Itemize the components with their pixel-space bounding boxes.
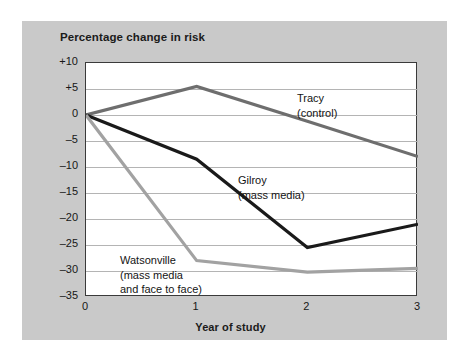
series-label-watsonville-line-1: (mass media — [120, 268, 202, 283]
series-label-tracy-line-0: Tracy — [297, 91, 337, 106]
series-line-0 — [86, 86, 418, 156]
x-tick-label: 0 — [73, 300, 97, 312]
series-label-gilroy: Gilroy (mass media) — [238, 173, 305, 202]
y-tick-label: 0 — [42, 107, 78, 119]
y-tick-label: +10 — [42, 55, 78, 67]
y-tick-label: –15 — [42, 185, 78, 197]
x-axis-label: Year of study — [0, 321, 461, 333]
series-label-watsonville-line-2: and face to face) — [120, 282, 202, 297]
y-tick-label: –10 — [42, 159, 78, 171]
x-tick-label: 2 — [294, 300, 318, 312]
series-label-tracy-line-1: (control) — [297, 106, 337, 121]
figure-root: Percentage change in risk +10+50–5–10–15… — [0, 0, 461, 360]
x-tick-label: 3 — [405, 300, 429, 312]
x-tick-label: 1 — [184, 300, 208, 312]
y-tick-label: –25 — [42, 237, 78, 249]
y-tick-label: –30 — [42, 263, 78, 275]
series-label-watsonville-line-0: Watsonville — [120, 253, 202, 268]
series-label-tracy: Tracy (control) — [297, 91, 337, 120]
chart-title: Percentage change in risk — [60, 31, 205, 43]
series-label-gilroy-line-1: (mass media) — [238, 188, 305, 203]
y-tick-label: –20 — [42, 211, 78, 223]
series-label-watsonville: Watsonville (mass media and face to face… — [120, 253, 202, 297]
y-tick-label: +5 — [42, 81, 78, 93]
y-tick-label: –5 — [42, 133, 78, 145]
series-label-gilroy-line-0: Gilroy — [238, 173, 305, 188]
